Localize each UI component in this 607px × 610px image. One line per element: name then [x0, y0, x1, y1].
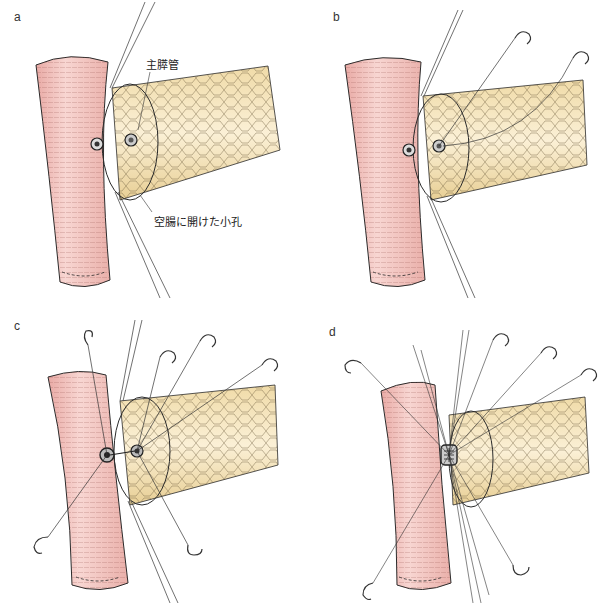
panel-d: d: [303, 305, 606, 610]
jejunum-pancreas-illustration-d: [303, 305, 606, 610]
panel-c: c: [0, 305, 303, 610]
panel-b: b: [303, 0, 606, 305]
callout-main-pancreatic-duct: 主膵管: [146, 56, 179, 72]
jejunum-pancreas-illustration-c: [0, 305, 303, 610]
jejunum-pancreas-illustration-b: [303, 0, 606, 305]
panel-a: a 主膵管 空腸に開けた小孔: [0, 0, 303, 305]
callout-jejunal-hole: 空腸に開けた小孔: [154, 213, 242, 229]
jejunum-pancreas-illustration-a: [0, 0, 303, 305]
